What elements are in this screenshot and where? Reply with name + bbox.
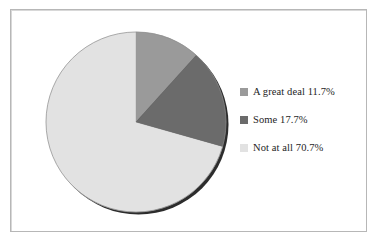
pie-plot-area [36,21,236,221]
legend-label-not-at-all: Not at all 70.7% [253,142,323,154]
legend-swatch-not-at-all [240,144,248,152]
legend-label-a-great-deal: A great deal 11.7% [253,86,335,98]
pie-chart-figure: A great deal 11.7% Some 17.7% Not at all… [0,0,385,247]
legend-label-some: Some 17.7% [253,114,308,126]
legend-swatch-some [240,116,248,124]
legend-swatch-a-great-deal [240,88,248,96]
legend-item-not-at-all[interactable]: Not at all 70.7% [240,142,365,154]
pie-svg [36,21,236,221]
legend-item-a-great-deal[interactable]: A great deal 11.7% [240,86,365,98]
legend-item-some[interactable]: Some 17.7% [240,114,365,126]
chart-legend: A great deal 11.7% Some 17.7% Not at all… [240,86,365,154]
